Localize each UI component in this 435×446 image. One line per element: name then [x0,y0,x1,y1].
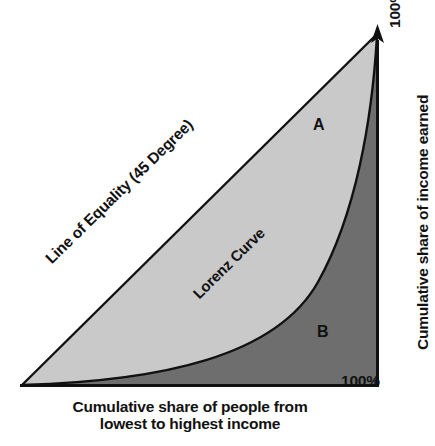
x-axis-title-line-1: Cumulative share of people from [73,398,308,415]
x-axis-title: Cumulative share of people from lowest t… [0,398,380,433]
y-axis-max-label: 100% [386,0,403,28]
area-a-label: A [313,116,324,134]
x-axis-max-label: 100% [341,372,380,389]
x-axis-title-line-2: lowest to highest income [0,415,380,432]
y-axis-title: Cumulative share of income earned [414,95,431,350]
area-b-label: B [317,323,328,341]
lorenz-curve-figure: Line of Equality (45 Degree) Lorenz Curv… [0,0,435,446]
